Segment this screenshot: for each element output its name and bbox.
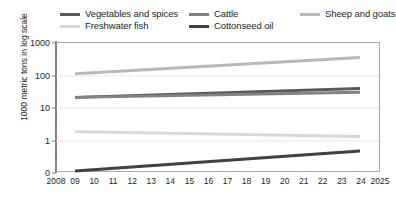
legend-item-cattle: Cattle [189, 9, 238, 19]
x-tick-label: 24 [356, 171, 365, 186]
legend-item-sheep-and-goats: Sheep and goats [300, 9, 395, 19]
legend-swatch-sheep-and-goats [300, 13, 320, 16]
y-axis-title: 1000 metric tons in log scale [19, 0, 29, 137]
x-tick-label: 2025 [371, 171, 390, 186]
legend-swatch-cattle [189, 13, 209, 16]
series-lines [56, 43, 379, 171]
x-tick-label: 17 [223, 171, 232, 186]
legend-label-cottonseed-oil: Cottonseed oil [214, 21, 273, 31]
x-tick-label: 18 [242, 171, 251, 186]
legend-swatch-freshwater-fish [60, 25, 80, 28]
x-tick-label: 19 [261, 171, 270, 186]
y-tick-label: 10 [40, 103, 56, 113]
y-tick-label: 100 [35, 71, 56, 81]
legend-label-freshwater-fish: Freshwater fish [85, 21, 148, 31]
legend-item-freshwater-fish: Freshwater fish [60, 21, 148, 31]
x-tick-label: 21 [299, 171, 308, 186]
chart-legend: Vegetables and spices Freshwater fish Ca… [56, 9, 396, 37]
x-tick-label: 16 [204, 171, 213, 186]
legend-label-cattle: Cattle [214, 9, 238, 19]
legend-item-vegetables-and-spices: Vegetables and spices [60, 9, 178, 19]
x-tick-label: 12 [128, 171, 137, 186]
series-line-sheep-and-goats [75, 58, 360, 74]
chart-figure: Vegetables and spices Freshwater fish Ca… [0, 0, 396, 197]
x-tick-label: 14 [166, 171, 175, 186]
x-tick-label: 09 [70, 171, 79, 186]
series-line-cottonseed-oil [75, 151, 360, 171]
x-tick-label: 23 [337, 171, 346, 186]
x-tick-label: 2008 [47, 171, 66, 186]
y-tick-label: 1 [45, 136, 56, 146]
legend-swatch-cottonseed-oil [189, 25, 209, 28]
x-tick-label: 22 [318, 171, 327, 186]
legend-item-cottonseed-oil: Cottonseed oil [189, 21, 273, 31]
legend-label-sheep-and-goats: Sheep and goats [325, 9, 395, 19]
plot-area: 10001001010 2008091011121314151617181920… [56, 42, 380, 172]
x-tick-label: 15 [185, 171, 194, 186]
legend-label-vegetables-and-spices: Vegetables and spices [85, 9, 178, 19]
x-tick-label: 10 [89, 171, 98, 186]
x-tick-label: 11 [109, 171, 118, 186]
x-tick-label: 13 [147, 171, 156, 186]
legend-swatch-vegetables-and-spices [60, 13, 80, 16]
x-tick-label: 20 [280, 171, 289, 186]
series-line-freshwater-fish [75, 132, 360, 137]
y-tick-label: 1000 [30, 38, 56, 48]
